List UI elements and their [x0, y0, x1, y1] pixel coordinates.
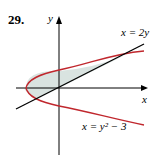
- parabola-label: x = y² − 3: [82, 120, 126, 132]
- y-axis-arrow: [56, 16, 62, 24]
- diagram: [0, 0, 157, 161]
- line-label: x = 2y: [121, 26, 149, 38]
- x-axis-arrow: [141, 85, 148, 91]
- y-axis-label: y: [48, 12, 53, 24]
- x-axis-label: x: [142, 93, 147, 105]
